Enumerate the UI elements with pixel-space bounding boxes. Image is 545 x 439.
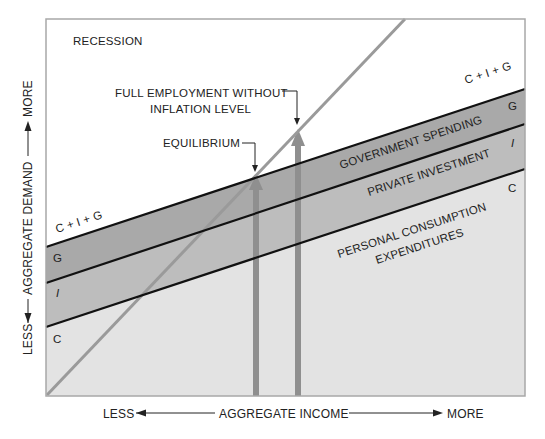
equilibrium-label: EQUILIBRIUM: [163, 137, 240, 149]
x-axis-title: AGGREGATE INCOME: [219, 407, 349, 421]
x-axis-left-arrow-icon: [136, 410, 146, 417]
y-axis-less: LESS: [21, 324, 35, 356]
y-axis-title: AGGREGATE DEMAND: [21, 161, 35, 295]
i-right-label: I: [511, 137, 515, 149]
full-employment-label-line2: INFLATION LEVEL: [150, 103, 252, 115]
y-axis-down-arrow-icon: [25, 313, 32, 323]
x-axis: LESS AGGREGATE INCOME MORE: [103, 407, 484, 421]
y-axis-more: MORE: [21, 80, 35, 117]
full-employment-label: FULL EMPLOYMENT WITHOUT: [115, 87, 288, 99]
x-axis-less: LESS: [103, 407, 135, 421]
y-axis-up-arrow-icon: [25, 121, 32, 131]
c-right-label: C: [508, 182, 517, 194]
x-axis-right-arrow-icon: [433, 410, 443, 417]
recession-label: RECESSION: [73, 35, 143, 47]
x-axis-more: MORE: [447, 407, 484, 421]
aggregate-demand-diagram: RECESSION FULL EMPLOYMENT WITHOUT INFLAT…: [0, 0, 545, 439]
y-axis: LESS AGGREGATE DEMAND MORE: [21, 80, 35, 355]
g-left-label: G: [53, 252, 62, 264]
g-right-label: G: [508, 100, 517, 112]
i-left-label: I: [56, 287, 60, 299]
c-left-label: C: [53, 333, 62, 345]
